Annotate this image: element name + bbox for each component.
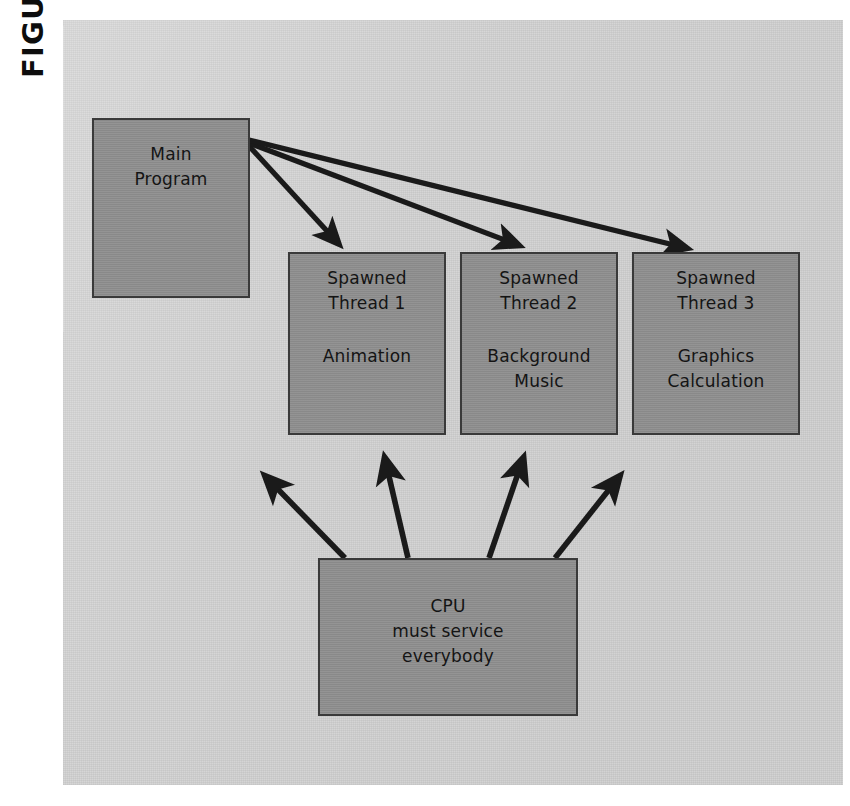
cpu-line-3: everybody <box>320 644 576 669</box>
spawned-thread-2-line-4: Music <box>462 369 616 394</box>
cpu-line-1: CPU <box>320 594 576 619</box>
main-program-label: Main Program <box>94 142 248 192</box>
spawned-thread-1-line-3: Animation <box>290 344 444 369</box>
main-program-line-2: Program <box>94 167 248 192</box>
spawned-thread-3-line-3: Graphics <box>634 344 798 369</box>
spawned-thread-1-task: Animation <box>290 344 444 369</box>
cpu-line-2: must service <box>320 619 576 644</box>
spawned-thread-2-line-3: Background <box>462 344 616 369</box>
figure-caption: FIGURE 8-6 <box>8 0 58 78</box>
spawned-thread-3-task: Graphics Calculation <box>634 344 798 394</box>
cpu-label: CPU must service everybody <box>320 594 576 669</box>
spawned-thread-3-line-1: Spawned <box>634 266 798 291</box>
spawned-thread-3-line-2: Thread 3 <box>634 291 798 316</box>
spawned-thread-1-line-1: Spawned <box>290 266 444 291</box>
cpu-box: CPU must service everybody <box>318 558 578 716</box>
spawned-thread-2-task: Background Music <box>462 344 616 394</box>
spawned-thread-3-line-4: Calculation <box>634 369 798 394</box>
spawned-thread-1-box: Spawned Thread 1 Animation <box>288 252 446 435</box>
spawned-thread-3-title: Spawned Thread 3 <box>634 266 798 316</box>
spawned-thread-3-box: Spawned Thread 3 Graphics Calculation <box>632 252 800 435</box>
scanned-page: Main Program Spawned Thread 1 Animation … <box>0 0 850 806</box>
spawned-thread-1-title: Spawned Thread 1 <box>290 266 444 316</box>
spawned-thread-2-title: Spawned Thread 2 <box>462 266 616 316</box>
spawned-thread-2-line-2: Thread 2 <box>462 291 616 316</box>
main-program-line-1: Main <box>94 142 248 167</box>
main-program-box: Main Program <box>92 118 250 298</box>
spawned-thread-2-box: Spawned Thread 2 Background Music <box>460 252 618 435</box>
spawned-thread-2-line-1: Spawned <box>462 266 616 291</box>
spawned-thread-1-line-2: Thread 1 <box>290 291 444 316</box>
